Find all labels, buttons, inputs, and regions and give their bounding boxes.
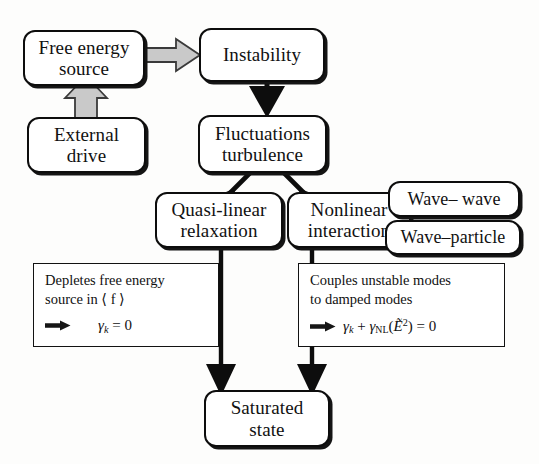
- node-wave-wave-label: Wave– wave: [407, 189, 500, 209]
- nonlinear-note-line1: Couples unstable modes: [310, 271, 495, 290]
- node-wave-wave[interactable]: Wave– wave: [388, 181, 520, 217]
- implies-arrow-icon: [310, 321, 336, 332]
- flowchart-canvas: Depletes free energy source in ⟨ f ⟩ γk …: [0, 0, 539, 464]
- node-free-energy-source-line2: source: [59, 58, 109, 79]
- node-instability[interactable]: Instability: [199, 28, 325, 82]
- node-free-energy-source[interactable]: Free energy source: [23, 30, 145, 86]
- node-quasi-linear-relaxation-line1: Quasi-linear: [171, 199, 266, 220]
- node-quasi-linear-relaxation-line2: relaxation: [181, 220, 258, 241]
- node-saturated-state[interactable]: Saturated state: [204, 390, 330, 447]
- node-saturated-state-line1: Saturated: [231, 397, 304, 418]
- node-wave-particle[interactable]: Wave–particle: [385, 220, 521, 255]
- quasi-linear-note: Depletes free energy source in ⟨ f ⟩ γk …: [33, 263, 219, 347]
- quasi-linear-note-line2: source in ⟨ f ⟩: [45, 290, 209, 309]
- implies-arrow-icon: [45, 320, 71, 331]
- node-instability-line1: Instability: [223, 44, 301, 65]
- nonlinear-note-equation: γk + γNL(Ẽ2) = 0: [310, 316, 495, 337]
- node-external-drive-line1: External: [54, 124, 119, 145]
- quasi-linear-note-line1: Depletes free energy: [45, 271, 209, 290]
- connector-free-energy-to-instability: [146, 39, 200, 71]
- nonlinear-note-line2: to damped modes: [310, 290, 495, 309]
- connector-instability-to-fluctuations: [249, 82, 285, 118]
- quasi-linear-note-equation: γk = 0: [45, 316, 209, 336]
- node-nonlinear-interaction-line2: interaction: [308, 220, 390, 241]
- nonlinear-note: Couples unstable modes to damped modes γ…: [298, 263, 505, 347]
- node-quasi-linear-relaxation[interactable]: Quasi-linear relaxation: [155, 192, 283, 248]
- node-external-drive[interactable]: External drive: [27, 117, 146, 173]
- node-external-drive-line2: drive: [67, 145, 107, 166]
- node-fluctuations-turbulence-line1: Fluctuations: [215, 123, 310, 144]
- node-wave-particle-label: Wave–particle: [401, 227, 506, 247]
- node-free-energy-source-line1: Free energy: [39, 37, 130, 58]
- node-fluctuations-turbulence[interactable]: Fluctuations turbulence: [198, 115, 327, 173]
- node-nonlinear-interaction-line1: Nonlinear: [311, 199, 388, 220]
- node-saturated-state-line2: state: [249, 419, 284, 440]
- node-fluctuations-turbulence-line2: turbulence: [222, 144, 303, 165]
